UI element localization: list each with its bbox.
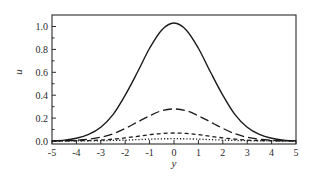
y-tick-label: 0.6 bbox=[36, 67, 49, 78]
y-axis-ticks: 0.00.20.40.60.81.0 bbox=[36, 21, 57, 147]
x-tick-label: -5 bbox=[48, 147, 56, 158]
series-long-dash bbox=[52, 109, 296, 141]
x-tick-label: 2 bbox=[220, 147, 225, 158]
x-tick-label: 4 bbox=[269, 147, 274, 158]
x-axis-label: y bbox=[171, 157, 177, 169]
x-tick-label: 5 bbox=[294, 147, 299, 158]
x-tick-label: 3 bbox=[245, 147, 250, 158]
x-tick-label: -1 bbox=[145, 147, 153, 158]
plot-border bbox=[52, 15, 296, 144]
y-tick-label: 0.2 bbox=[36, 113, 49, 124]
y-tick-label: 0.8 bbox=[36, 44, 49, 55]
line-chart: 0.00.20.40.60.81.0 -5-4-3-2-1012345 y u bbox=[0, 0, 312, 181]
x-tick-label: 1 bbox=[196, 147, 201, 158]
x-tick-label: -3 bbox=[97, 147, 105, 158]
y-tick-label: 1.0 bbox=[36, 21, 49, 32]
x-tick-label: -4 bbox=[72, 147, 80, 158]
series-solid bbox=[52, 23, 296, 141]
y-tick-label: 0.4 bbox=[36, 90, 49, 101]
plot-frame bbox=[52, 15, 296, 144]
x-axis-ticks: -5-4-3-2-1012345 bbox=[48, 140, 299, 158]
y-axis-label: u bbox=[12, 69, 24, 75]
data-series bbox=[52, 23, 296, 141]
x-tick-label: -2 bbox=[121, 147, 129, 158]
y-tick-label: 0.0 bbox=[36, 136, 49, 147]
